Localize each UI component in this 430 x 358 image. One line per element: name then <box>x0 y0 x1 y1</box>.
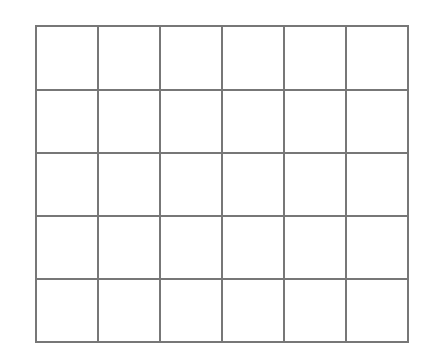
grid-horizontal-line <box>35 89 409 91</box>
grid-horizontal-line <box>35 152 409 154</box>
grid-vertical-line <box>35 25 37 343</box>
grid-horizontal-line <box>35 341 409 343</box>
grid-vertical-line <box>283 25 285 343</box>
grid-horizontal-line <box>35 278 409 280</box>
grid-horizontal-line <box>35 215 409 217</box>
grid-vertical-line <box>345 25 347 343</box>
grid-horizontal-line <box>35 25 409 27</box>
grid-vertical-line <box>407 25 409 343</box>
grid-vertical-line <box>97 25 99 343</box>
grid-vertical-line <box>221 25 223 343</box>
grid-vertical-line <box>159 25 161 343</box>
